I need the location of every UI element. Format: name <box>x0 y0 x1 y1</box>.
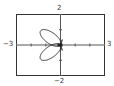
y-min-label: −2 <box>54 78 64 85</box>
x-min-label: −3 <box>3 41 13 48</box>
x-max-label: 3 <box>107 41 111 48</box>
y-max-label: 2 <box>57 5 61 12</box>
plot-area <box>0 0 114 86</box>
